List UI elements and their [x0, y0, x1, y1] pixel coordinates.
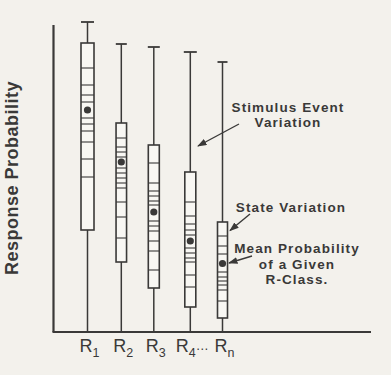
- annotation-mean-probability-of-a-given-r-class: Mean Probabilityof a GivenR-Class.: [229, 241, 360, 287]
- annotation-text: R-Class.: [266, 272, 329, 287]
- box: [116, 123, 127, 262]
- annotation-arrow: [229, 256, 252, 263]
- boxplot-r4: R4…: [176, 52, 209, 360]
- boxplot-r3: R3: [146, 47, 166, 360]
- x-tick-label-r3: R3: [146, 336, 166, 360]
- x-tick-label-rn: Rn: [215, 336, 235, 360]
- box: [148, 145, 159, 288]
- annotation-text: of a Given: [259, 257, 335, 272]
- annotation-text: Stimulus Event: [232, 100, 345, 115]
- figure: Response ProbabilityR1R2R3R4…RnStimulus …: [0, 0, 391, 375]
- x-tick-label-r2: R2: [113, 336, 133, 360]
- mean-dot: [219, 260, 226, 267]
- y-axis-label: Response Probability: [2, 81, 22, 275]
- annotation-arrow: [230, 214, 250, 231]
- annotation-text: Mean Probability: [234, 241, 360, 256]
- mean-dot: [84, 106, 91, 113]
- x-tick-label-r1: R1: [80, 336, 100, 360]
- mean-dot: [187, 237, 194, 244]
- boxplot-r2: R2: [113, 44, 133, 360]
- annotation-arrow: [198, 124, 239, 146]
- annotation-text: State Variation: [236, 200, 346, 215]
- figure-canvas: Response ProbabilityR1R2R3R4…RnStimulus …: [0, 0, 391, 375]
- annotation-state-variation: State Variation: [230, 200, 346, 231]
- mean-dot: [150, 208, 157, 215]
- x-tick-label-r4: R4…: [176, 336, 209, 360]
- annotation-text: Variation: [255, 115, 322, 130]
- box: [81, 43, 94, 230]
- annotation-stimulus-event-variation: Stimulus EventVariation: [198, 100, 344, 146]
- mean-dot: [118, 158, 125, 165]
- boxplot-r1: R1: [80, 22, 100, 360]
